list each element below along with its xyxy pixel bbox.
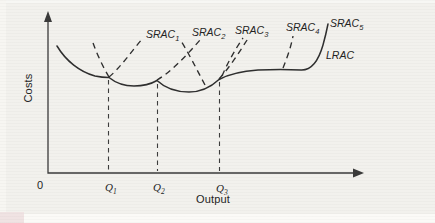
lrac-label: LRAC	[326, 49, 354, 61]
origin-label: 0	[37, 179, 43, 191]
page-edge-left	[0, 0, 6, 223]
page-edge-bottom	[0, 214, 435, 223]
lrac-srac-diagram: SRAC1 SRAC2 SRAC3 SRAC4 SRAC5 LRAC Costs…	[0, 0, 435, 223]
page-corner-tint	[0, 212, 24, 223]
y-axis-label: Costs	[22, 73, 34, 102]
page-edge-top	[0, 0, 435, 3]
